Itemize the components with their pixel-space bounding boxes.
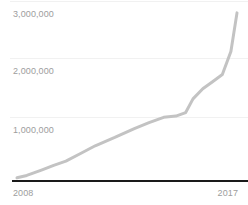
x-tick-label-2017: 2017 xyxy=(218,188,238,198)
x-tick-label-2008: 2008 xyxy=(13,188,33,198)
series-line-path xyxy=(0,0,248,181)
x-axis-line xyxy=(12,180,248,182)
line-chart: 3,000,000 2,000,000 1,000,000 2008 2017 xyxy=(0,0,248,205)
plot-area: 3,000,000 2,000,000 1,000,000 xyxy=(0,0,248,181)
